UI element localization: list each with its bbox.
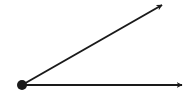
angle-diagram	[0, 0, 188, 108]
upper-ray-arrow	[22, 5, 162, 85]
vertex-point	[17, 80, 27, 90]
